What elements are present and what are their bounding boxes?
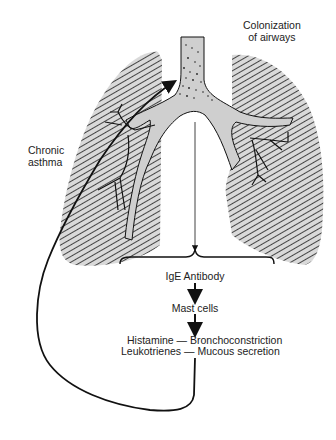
leukotrienes-label: Leukotrienes — Mucous secretion <box>121 345 280 357</box>
chronic-asthma-label: Chronic asthma <box>28 144 64 168</box>
mast-cells-label: Mast cells <box>168 302 222 314</box>
colonization-line-2: of airways <box>243 31 301 43</box>
colonization-label: Colonization of airways <box>243 19 301 43</box>
lung-asthma-diagram <box>0 0 336 440</box>
colonization-line-1: Colonization <box>243 19 301 31</box>
ige-antibody-label: IgE Antibody <box>163 270 227 282</box>
chronic-asthma-line-2: asthma <box>28 156 64 168</box>
chronic-asthma-line-1: Chronic <box>28 144 64 156</box>
